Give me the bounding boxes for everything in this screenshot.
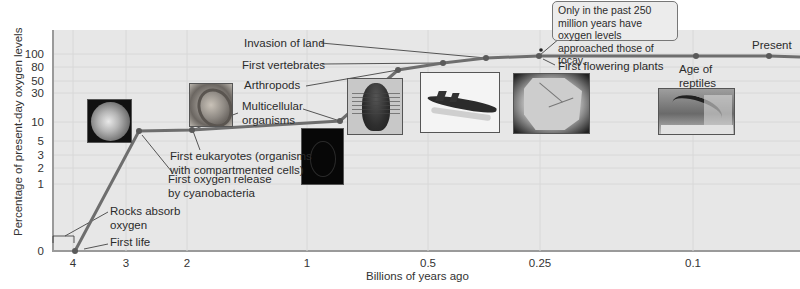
y-tick-80: 80 [31,61,44,73]
label-first-life: First life [110,236,150,250]
label-rocks-line2: oxygen [110,219,147,231]
y-tick-1: 1 [38,178,44,190]
y-tick-50: 50 [31,75,44,87]
eukaryote-cell-photo [189,83,233,127]
label-oxygen-release-line1: First oxygen release [168,173,272,185]
arthropod-trilobite-photo [347,78,403,135]
x-tick-0-1: 0.1 [685,257,701,269]
label-invasion-of-land: Invasion of land [244,37,325,51]
x-tick-0-25: 0.25 [529,257,551,269]
y-axis-label: Percentage of present-day oxygen levels [12,36,24,236]
y-tick-10: 10 [31,116,44,128]
label-present: Present [752,39,792,53]
x-tick-3: 3 [123,257,129,269]
y-tick-3: 3 [38,149,44,161]
vertebrate-fish-photo [420,72,500,133]
x-tick-2: 2 [184,257,190,269]
label-reptiles-line2: reptiles [679,77,716,89]
label-rocks-absorb-oxygen: Rocks absorb oxygen [110,205,180,232]
cyanobacteria-photo [87,99,132,143]
label-multicellular: Multicellular organisms [242,100,303,127]
label-age-of-reptiles: Age of reptiles [679,63,716,90]
x-tick-1: 1 [304,257,310,269]
label-reptiles-line1: Age of [679,63,712,75]
label-multicellular-line1: Multicellular [242,100,303,112]
y-tick-5: 5 [38,135,44,147]
label-multicellular-line2: organisms [242,114,295,126]
x-tick-0-5: 0.5 [420,257,436,269]
label-eukaryotes-line1: First eukaryotes (organisms [170,150,312,162]
y-tick-100: 100 [25,48,44,60]
flowering-plant-fossil-photo [513,73,590,134]
x-tick-4: 4 [70,257,76,269]
callout-oxygen-250-million: Only in the past 250 million years have … [552,1,678,41]
x-axis-label: Billions of years ago [366,270,469,282]
label-first-vertebrates: First vertebrates [242,59,325,73]
label-rocks-line1: Rocks absorb [110,205,180,217]
label-oxygen-release-line2: by cyanobacteria [168,187,255,199]
y-tick-0: 0 [38,245,44,257]
y-tick-30: 30 [31,87,44,99]
reptile-skeleton-photo [658,88,735,135]
y-tick-2: 2 [38,162,44,174]
label-first-oxygen-release: First oxygen release by cyanobacteria [168,173,272,200]
label-arthropods: Arthropods [244,79,300,93]
